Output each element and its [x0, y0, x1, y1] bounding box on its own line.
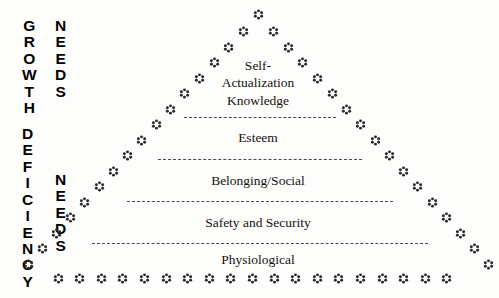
flower-asterisk-left-11 [79, 197, 90, 208]
flower-asterisk-base-6 [182, 273, 193, 284]
tier-label-esteem-line-0: Esteem [238, 130, 278, 146]
deficiency-category-letter-3: I [22, 175, 33, 191]
flower-asterisk-left-8 [122, 150, 133, 161]
tier-label-physiological: Physiological [221, 252, 295, 268]
tier-label-belonging-social: Belonging/Social [211, 173, 305, 189]
growth-category-letter-5: H [22, 100, 37, 116]
flower-asterisk-base-10 [269, 273, 280, 284]
flower-asterisk-base-12 [312, 273, 323, 284]
growth-category-letter-3: W [22, 67, 37, 83]
flower-asterisk-left-13 [51, 228, 62, 239]
flower-asterisk-right-4 [327, 88, 338, 99]
tier-label-belonging-social-line-0: Belonging/Social [211, 173, 305, 189]
growth-needs-letter-4: S [55, 84, 66, 100]
growth-needs-label: NEEDS [55, 18, 66, 100]
deficiency-category-letter-1: E [22, 142, 33, 158]
flower-asterisk-left-4 [179, 88, 190, 99]
flower-asterisk-base-0 [53, 273, 64, 284]
deficiency-category-letter-4: C [22, 192, 33, 208]
deficiency-category-letter-7: N [22, 241, 33, 257]
growth-needs-letter-2: E [55, 51, 66, 67]
flower-asterisk-base-18 [441, 273, 452, 284]
flower-asterisk-right-5 [341, 104, 352, 115]
flower-asterisk-right-1 [283, 42, 294, 53]
flower-asterisk-base-1 [74, 273, 85, 284]
growth-category-label: GROWTH [22, 18, 37, 117]
flower-asterisk-right-2 [297, 57, 308, 68]
growth-category-letter-4: T [22, 84, 37, 100]
flower-asterisk-left-7 [136, 135, 147, 146]
tier-label-physiological-line-0: Physiological [221, 252, 295, 268]
divider-esteem-belonging [158, 159, 362, 160]
flower-asterisk-base-7 [204, 273, 215, 284]
divider-safety-physiological [92, 243, 428, 244]
tier-label-self-actualization-line-1: Actualization [222, 74, 295, 91]
deficiency-category-letter-9: Y [22, 274, 33, 290]
deficiency-needs-letter-0: N [55, 172, 66, 188]
flower-asterisk-right-0 [268, 26, 279, 37]
growth-needs-letter-0: N [55, 18, 66, 34]
flower-asterisk-left-2 [209, 57, 220, 68]
flower-asterisk-base-8 [225, 273, 236, 284]
flower-asterisk-base-13 [333, 273, 344, 284]
flower-asterisk-left-10 [94, 181, 105, 192]
maslow-hierarchy-diagram: GROWTH NEEDS DEFICIENCY NEEDS Self-Actua… [0, 0, 499, 298]
divider-self-actualization-esteem [184, 117, 336, 118]
tier-label-esteem: Esteem [238, 130, 278, 146]
flower-asterisk-right-15 [483, 259, 494, 270]
flower-asterisk-base-2 [96, 273, 107, 284]
flower-asterisk-right-7 [370, 135, 381, 146]
flower-asterisk-left-6 [151, 119, 162, 130]
flower-asterisk-right-13 [455, 228, 466, 239]
flower-asterisk-left-0 [238, 26, 249, 37]
flower-asterisk-right-8 [384, 150, 395, 161]
deficiency-category-letter-2: F [22, 159, 33, 175]
flower-asterisk-apex [253, 9, 264, 20]
flower-asterisk-base-16 [398, 273, 409, 284]
flower-asterisk-base-15 [377, 273, 388, 284]
growth-category-letter-2: O [22, 51, 37, 67]
flower-asterisk-right-11 [427, 197, 438, 208]
flower-asterisk-base-9 [247, 273, 258, 284]
flower-asterisk-left-14 [37, 243, 48, 254]
flower-asterisk-base-11 [290, 273, 301, 284]
flower-asterisk-left-1 [223, 42, 234, 53]
flower-asterisk-right-6 [355, 119, 366, 130]
flower-asterisk-base-17 [420, 273, 431, 284]
flower-asterisk-left-12 [65, 212, 76, 223]
flower-asterisk-left-9 [108, 166, 119, 177]
flower-asterisk-base-5 [161, 273, 172, 284]
tier-label-safety-and-security-line-0: Safety and Security [205, 215, 311, 231]
growth-needs-letter-3: D [55, 67, 66, 83]
flower-asterisk-right-3 [312, 73, 323, 84]
tier-label-self-actualization-line-0: Self- [222, 57, 295, 74]
deficiency-category-letter-6: E [22, 225, 33, 241]
divider-belonging-safety [127, 201, 393, 202]
flower-asterisk-left-15 [23, 259, 34, 270]
growth-needs-letter-1: E [55, 34, 66, 50]
flower-asterisk-right-10 [412, 181, 423, 192]
flower-asterisk-base-3 [117, 273, 128, 284]
deficiency-category-letter-0: D [22, 126, 33, 142]
flower-asterisk-base-4 [139, 273, 150, 284]
growth-category-letter-0: G [22, 18, 37, 34]
tier-label-self-actualization-line-2: Knowledge [222, 92, 295, 109]
tier-label-self-actualization: Self-ActualizationKnowledge [222, 57, 295, 109]
flower-asterisk-base-14 [355, 273, 366, 284]
flower-asterisk-right-14 [469, 243, 480, 254]
tier-label-safety-and-security: Safety and Security [205, 215, 311, 231]
flower-asterisk-left-5 [165, 104, 176, 115]
deficiency-needs-letter-4: S [55, 238, 66, 254]
flower-asterisk-left-3 [194, 73, 205, 84]
deficiency-category-letter-5: I [22, 208, 33, 224]
flower-asterisk-right-9 [398, 166, 409, 177]
flower-asterisk-right-12 [441, 212, 452, 223]
growth-category-letter-1: R [22, 34, 37, 50]
deficiency-needs-letter-1: E [55, 188, 66, 204]
